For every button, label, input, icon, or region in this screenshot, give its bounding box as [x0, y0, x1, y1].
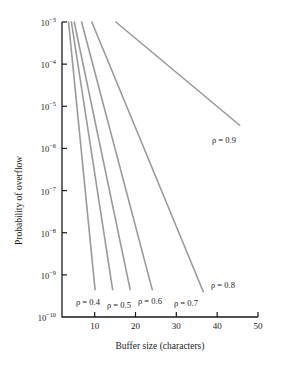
y-tick-exponent: −3: [49, 16, 56, 23]
y-tick-label: 10−6: [41, 143, 56, 153]
y-tick-label: 10−8: [41, 228, 56, 238]
x-tick-label: 20: [124, 322, 148, 331]
y-tick-label: 10−7: [41, 186, 56, 196]
y-tick-exponent: −4: [49, 58, 56, 65]
y-tick-label: 10−10: [38, 312, 56, 322]
x-axis-ticks: [95, 312, 258, 317]
y-tick-label: 10−5: [41, 101, 56, 111]
y-tick-mantissa: 10: [38, 313, 47, 323]
curve-label: ρ = 0.7: [174, 299, 198, 308]
curve-0-6: [74, 22, 130, 290]
x-tick-label: 30: [164, 322, 188, 331]
y-tick-exponent: −9: [49, 269, 56, 276]
y-tick-label: 10−3: [41, 17, 56, 27]
y-axis-title: Probability of overflow: [14, 156, 24, 245]
x-tick-label: 50: [246, 322, 270, 331]
y-tick-exponent: −6: [49, 142, 56, 149]
curve-label: ρ = 0.5: [107, 301, 131, 310]
curve-0-9: [116, 22, 240, 125]
y-tick-label: 10−4: [41, 59, 56, 69]
curve-0-4: [69, 22, 96, 290]
curve-label: ρ = 0.8: [211, 281, 235, 290]
curve-0-8: [92, 22, 203, 292]
data-curves: [69, 22, 240, 292]
x-tick-label: 10: [83, 322, 107, 331]
y-tick-label: 10−9: [41, 270, 56, 280]
x-tick-label: 40: [205, 322, 229, 331]
curve-label: ρ = 0.4: [76, 298, 100, 307]
curve-label: ρ = 0.6: [138, 297, 162, 306]
x-axis-title: Buffer size (characters): [62, 341, 258, 351]
y-axis-ticks: [62, 22, 67, 275]
figure-container: 10−310−410−510−610−710−810−910−10 102030…: [0, 0, 283, 370]
y-tick-exponent: −5: [49, 100, 56, 107]
y-tick-exponent: −7: [49, 185, 56, 192]
y-tick-exponent: −8: [49, 227, 56, 234]
y-tick-exponent: −10: [46, 311, 56, 318]
curve-label: ρ = 0.9: [212, 136, 236, 145]
axis-lines: [62, 22, 258, 317]
